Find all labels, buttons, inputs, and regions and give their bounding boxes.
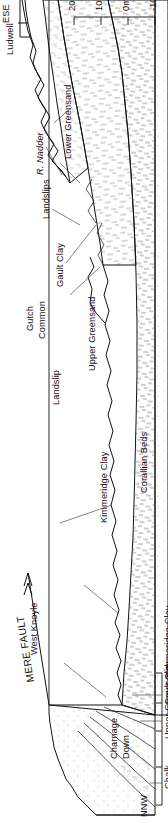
figure-canvas: NNW ESE Ludwell R. Nadder Landslips Gaul… bbox=[0, 0, 168, 823]
cross-section-figure: NNW ESE Ludwell R. Nadder Landslips Gaul… bbox=[0, 0, 168, 823]
label-leaders bbox=[0, 0, 168, 823]
tick-label-0m: 0m bbox=[122, 0, 132, 11]
label-charnage-line2: Down bbox=[122, 735, 132, 759]
label-landslip: Landslip bbox=[52, 370, 62, 405]
label-nnw: NNW bbox=[140, 795, 150, 817]
label-ese: ESE bbox=[2, 4, 12, 23]
label-gutch-common-line2: Common bbox=[38, 301, 48, 339]
label-landslips: Landslips bbox=[42, 179, 52, 219]
label-corallian-beds: Corallian Beds bbox=[140, 432, 150, 493]
tick-label-200m: 200m bbox=[68, 0, 78, 11]
label-upper-greensand: Upper Greensand bbox=[88, 296, 98, 371]
label-kimmeridge-clay: Kimmeridge Clay bbox=[100, 452, 110, 523]
legend-chalk: Chalk bbox=[164, 765, 168, 789]
label-gault-clay: Gault Clay bbox=[56, 243, 66, 287]
legend-kimmeridge-clay: Kimmeridge Clay bbox=[164, 606, 168, 677]
label-west-knoyle: West Knoyle bbox=[30, 602, 40, 655]
label-lower-greensand: Lower Greensand bbox=[64, 84, 74, 159]
tick-label-100m: 100m bbox=[95, 0, 105, 11]
label-ludwell: Ludwell bbox=[6, 23, 16, 55]
label-charnage-line1: Charnage bbox=[110, 718, 120, 759]
label-r-nadder: R. Nadder bbox=[36, 132, 46, 175]
tick-label-minus-100m: -100m bbox=[149, 0, 159, 11]
label-gutch-common-line1: Gutch bbox=[26, 306, 36, 331]
